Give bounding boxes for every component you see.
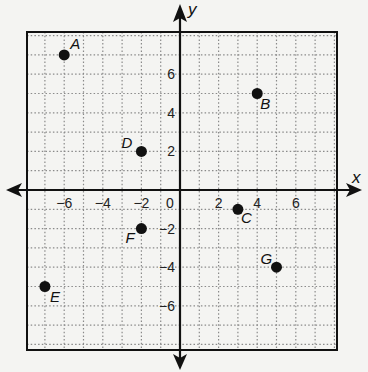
point-label-d: D bbox=[121, 134, 132, 151]
point-e bbox=[39, 281, 50, 292]
y-tick-label: 6 bbox=[167, 66, 175, 82]
coordinate-plane: −6−4−20246642−2−4−6 ABCDEFG x y bbox=[0, 0, 368, 372]
x-tick-label: −4 bbox=[95, 195, 111, 211]
x-tick-label: 6 bbox=[292, 195, 300, 211]
y-tick-label: 4 bbox=[167, 105, 175, 121]
x-tick-label: −6 bbox=[56, 195, 72, 211]
x-tick-label: 0 bbox=[166, 195, 174, 211]
y-tick-label: −4 bbox=[159, 259, 175, 275]
x-axis-label: x bbox=[351, 168, 361, 187]
x-tick-label: 4 bbox=[253, 195, 261, 211]
point-label-c: C bbox=[241, 209, 252, 226]
x-tick-label: −2 bbox=[133, 195, 149, 211]
y-axis-label: y bbox=[187, 0, 198, 19]
point-a bbox=[59, 49, 70, 60]
point-label-b: B bbox=[260, 95, 270, 112]
y-tick-label: 2 bbox=[167, 143, 175, 159]
point-label-a: A bbox=[69, 35, 80, 52]
point-f bbox=[136, 223, 147, 234]
y-tick-label: −6 bbox=[159, 298, 175, 314]
y-tick-label: −2 bbox=[159, 221, 175, 237]
axes bbox=[6, 4, 362, 370]
point-label-f: F bbox=[125, 229, 135, 246]
point-g bbox=[271, 262, 282, 273]
point-d bbox=[136, 146, 147, 157]
point-label-g: G bbox=[261, 250, 273, 267]
point-label-e: E bbox=[50, 288, 61, 305]
x-tick-label: 2 bbox=[215, 195, 223, 211]
